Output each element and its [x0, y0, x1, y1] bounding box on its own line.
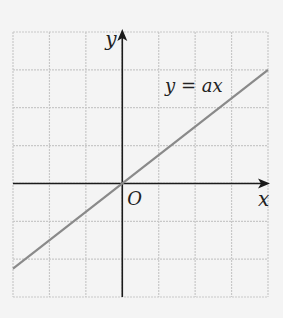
grid — [13, 32, 268, 297]
x-axis-label: x — [258, 187, 269, 211]
y-axis-label: y — [104, 27, 117, 51]
function-line — [13, 70, 268, 269]
origin-label: O — [127, 188, 142, 209]
graph: y x O y = ax — [0, 0, 283, 318]
function-label: y = ax — [164, 75, 223, 96]
